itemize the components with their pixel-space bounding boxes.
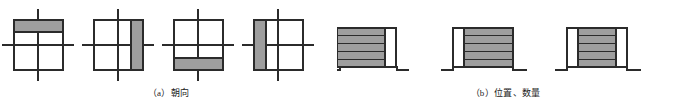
- orientation-west-diagram: [242, 9, 314, 81]
- orientation-north-diagram: [2, 9, 74, 81]
- void-strip-right: [616, 28, 627, 67]
- panel-b-caption: （b）位置、数量: [337, 87, 674, 99]
- void-strip-left: [567, 28, 578, 67]
- massing-block: [578, 28, 616, 67]
- panel-a-orientation: （a）朝向: [0, 0, 337, 100]
- facade-bar-top: [14, 20, 63, 32]
- void-strip-right: [385, 28, 396, 67]
- facade-bar-left: [254, 20, 266, 70]
- massing-block: [337, 28, 385, 67]
- panel-b-position-count: （b）位置、数量: [337, 0, 674, 100]
- facade-bar-right: [131, 20, 143, 70]
- panel-a-caption: （a）朝向: [0, 87, 337, 99]
- panel-a-diagrams: [0, 0, 337, 82]
- position-centered-diagram: [555, 28, 641, 70]
- massing-block: [464, 28, 513, 67]
- orientation-east-diagram: [82, 9, 154, 81]
- void-strip-left: [453, 28, 464, 67]
- figure-root: （a）朝向: [0, 0, 674, 100]
- position-left-aligned-diagram: [337, 28, 409, 70]
- position-right-aligned-diagram: [441, 28, 527, 70]
- orientation-south-diagram: [162, 9, 234, 81]
- panel-b-diagrams: [337, 0, 674, 82]
- facade-bar-bottom: [174, 58, 223, 70]
